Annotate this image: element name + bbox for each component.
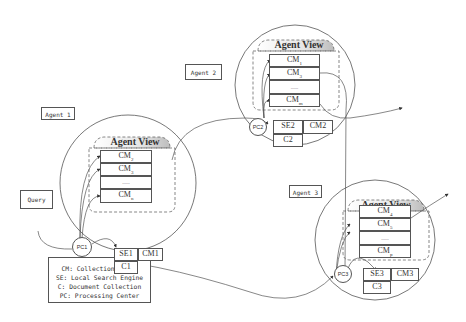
agent-2-label: Agent 2 xyxy=(185,64,222,80)
agent-2-model-row: ...... xyxy=(269,80,320,94)
agent-3-model-row: CM4 xyxy=(359,205,411,218)
agent-3-label: Agent 3 xyxy=(289,185,322,198)
agent-3-processing-center: PC3 xyxy=(334,265,352,283)
agent-2-model-row: CM3 xyxy=(269,67,320,80)
agent-1-document-collection: C1 xyxy=(114,261,138,274)
legend-item: SE: Local Search Engine xyxy=(49,273,150,282)
agent-1-model-row: CM3 xyxy=(100,163,152,176)
agent-1-model-row: ...... xyxy=(100,176,152,189)
agent-2-collection-model: CM2 xyxy=(303,120,333,134)
legend-item: PC: Processing Center xyxy=(49,291,150,300)
agent-1-model-row: CMn xyxy=(100,189,152,203)
agent-1-model-row: CM2 xyxy=(100,150,152,163)
legend-item: C: Document Collection xyxy=(49,282,150,291)
agent-3-model-row: CMp xyxy=(359,245,411,258)
agent-2-view-title: Agent View xyxy=(264,39,334,50)
agent-3-search-engine: SE3 xyxy=(363,268,391,281)
agent-1-collection-model: CM1 xyxy=(138,248,163,261)
agent-1-search-engine: SE1 xyxy=(114,248,138,261)
agent-3-model-row: ...... xyxy=(359,231,411,245)
agent-2-model-row: CMm xyxy=(269,94,320,107)
agent-1-processing-center: PC1 xyxy=(72,237,92,257)
agent-2-processing-center: PC2 xyxy=(249,118,267,136)
agent-3-document-collection: C3 xyxy=(363,281,391,294)
agent-1-label: Agent 1 xyxy=(41,107,75,120)
agent-2-document-collection: C2 xyxy=(273,134,303,147)
query-box: Query xyxy=(20,190,53,209)
agent-2-model-row: CM1 xyxy=(269,54,320,67)
agent-1-view-title: Agent View xyxy=(100,136,170,147)
agent-3-model-row: CM5 xyxy=(359,218,411,231)
agent-2-search-engine: SE2 xyxy=(273,120,303,134)
agent-3-collection-model: CM3 xyxy=(391,268,419,281)
